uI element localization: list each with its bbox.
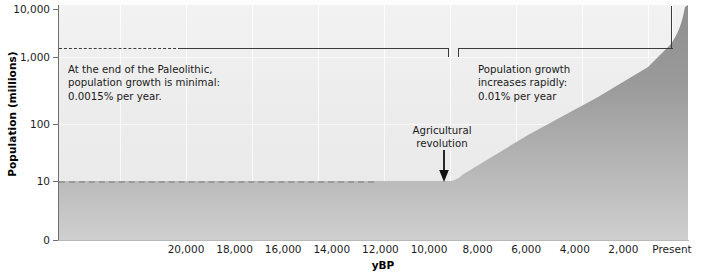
bracket-left-endtick [448, 48, 449, 57]
agricultural-revolution-label: Agricultural revolution [388, 124, 496, 151]
paleolithic-annotation-line3: 0.0015% per year. [68, 90, 258, 103]
bracket-right-vertical [671, 6, 672, 49]
bracket-left-horizontal [181, 48, 449, 49]
y-axis-line [58, 5, 59, 241]
y-axis-tick [53, 181, 58, 182]
growth-annotation-line3: 0.01% per year [478, 90, 628, 103]
down-arrow-icon [436, 150, 452, 184]
x-axis-label-present: Present [642, 243, 702, 255]
reference-line-10 [59, 181, 374, 183]
population-area-series [58, 5, 688, 240]
plot-area [58, 5, 688, 240]
y-axis-tick [53, 124, 58, 125]
y-axis-tick [53, 240, 58, 241]
growth-annotation-line2: increases rapidly: [478, 76, 628, 89]
agricultural-revolution-line1: Agricultural [388, 124, 496, 137]
y-axis-tick [53, 57, 58, 58]
paleolithic-annotation-line1: At the end of the Paleolithic, [68, 63, 258, 76]
bracket-right-horizontal [458, 48, 673, 49]
x-axis-title: yBP [343, 259, 423, 271]
reference-line-1000 [59, 48, 181, 49]
y-axis-label-10000: 10,000 [4, 4, 50, 14]
paleolithic-annotation-line2: population growth is minimal: [68, 76, 258, 89]
x-axis-line [58, 240, 689, 241]
agricultural-revolution-line2: revolution [388, 137, 496, 150]
y-axis-label-0: 0 [4, 235, 50, 245]
chart-root: 10,000 1,000 100 10 0 20,000 18,000 16,0… [0, 0, 706, 276]
y-axis-tick [53, 9, 58, 10]
growth-annotation: Population growth increases rapidly: 0.0… [478, 63, 628, 103]
paleolithic-annotation: At the end of the Paleolithic, populatio… [68, 63, 258, 103]
y-axis-title: Population (millions) [6, 24, 18, 204]
growth-annotation-line1: Population growth [478, 63, 628, 76]
